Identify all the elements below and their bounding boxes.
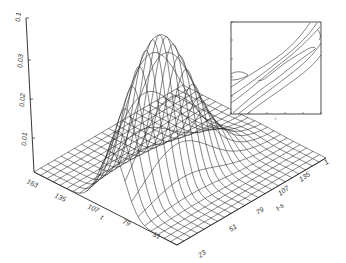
inset-x-label: t [275,117,276,121]
y-axis-label: t-s [275,201,286,211]
inset-contour-plot: t [231,22,321,121]
y-tick-label: 23 [196,249,207,260]
z-tick-label: 0.01 [20,132,28,146]
y-tick-label: 135 [298,170,312,182]
y-tick-label: 79 [255,206,265,216]
surface-plot: 0.1 0.03 0.02 0.01 163 135 107 t 79 51 2… [0,0,346,263]
z-tick-label: 0.02 [18,93,26,107]
x-tick-label: 163 [26,178,40,189]
x-tick-label: 79 [122,218,132,228]
y-tick-label: 1 [323,158,330,166]
z-axis [26,18,34,172]
z-tick-label: 0.03 [16,54,24,68]
x-axis-label: t [100,214,106,222]
x-tick-label: 107 [87,203,102,215]
x-tick-label: 135 [54,192,68,203]
z-tick-label: 0.1 [14,12,22,22]
y-tick-label: 51 [228,223,238,233]
inset-frame [231,22,321,114]
